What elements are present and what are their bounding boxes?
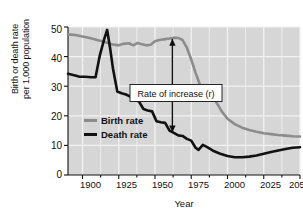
- legend-label-death-rate: Death rate: [101, 129, 147, 140]
- chart-plot: Rate of increase (r) Birth rate Death ra…: [0, 0, 303, 221]
- annotation-label: Rate of increase (r): [137, 89, 214, 99]
- rate-of-increase-annotation: Rate of increase (r): [130, 85, 222, 102]
- chart-figure: Birth or death rate per 1,000 population…: [0, 0, 303, 221]
- legend-label-birth-rate: Birth rate: [101, 115, 143, 126]
